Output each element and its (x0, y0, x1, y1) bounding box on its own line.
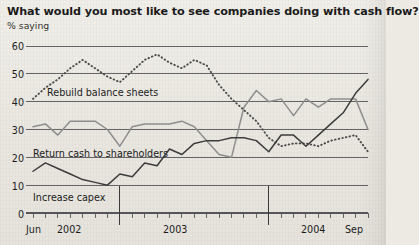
series-line-return-cash-to-shareholders (33, 91, 368, 158)
series-line-increase-capex (33, 79, 368, 185)
series-line-rebuild-balance-sheets (33, 54, 368, 151)
year-divider-lines (120, 186, 269, 225)
x-axis-ticks (33, 213, 368, 218)
